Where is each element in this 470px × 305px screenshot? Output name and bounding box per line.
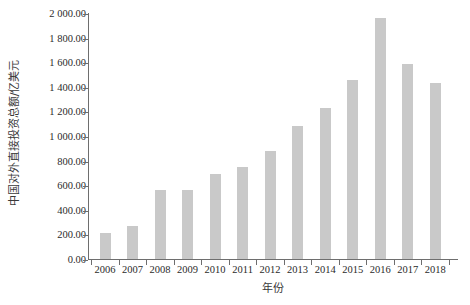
plot-area [88,13,458,260]
bar [402,64,413,259]
y-axis-tick-label: 0.00 [18,255,86,265]
bar [265,151,276,259]
y-axis-tick-label: 1 600.00 [18,58,86,68]
y-axis-tick-label: 600.00 [18,181,86,191]
bar [292,126,303,259]
y-axis-tick-label: 1 200.00 [18,107,86,117]
bar [237,167,248,259]
bar [320,108,331,259]
bar-chart-figure: 中国对外直接投资总额/亿美元 0.00200.00400.00600.00800… [0,0,470,305]
bar [182,190,193,259]
x-axis-title: 年份 [88,282,458,296]
y-axis-tick-label: 2 000.00 [18,9,86,19]
y-axis-tick-labels: 0.00200.00400.00600.00800.001 000.001 20… [18,0,86,305]
y-axis-tick-label: 1 400.00 [18,83,86,93]
y-axis-tick-mark [83,39,88,40]
y-axis-tick-mark [83,137,88,138]
bar [375,18,386,259]
bar [430,83,441,259]
y-axis-tick-label: 200.00 [18,230,86,240]
y-axis-tick-label: 400.00 [18,206,86,216]
y-axis-tick-mark [83,63,88,64]
y-axis-tick-mark [83,88,88,89]
y-axis-tick-label: 1 000.00 [18,132,86,142]
y-axis-tick-label: 800.00 [18,157,86,167]
bar [347,80,358,259]
x-axis-tick-labels: 2006200720082009201020112012201320142015… [88,263,458,279]
y-axis-tick-mark [83,260,88,261]
y-axis-tick-mark [83,211,88,212]
bar [100,233,111,259]
y-axis-tick-mark [83,235,88,236]
bar [210,174,221,259]
bar [155,190,166,259]
y-axis-tick-mark [83,162,88,163]
y-axis-tick-mark [83,186,88,187]
y-axis-tick-label: 1 800.00 [18,34,86,44]
x-axis-tick-label: 2018 [415,263,455,276]
y-axis-tick-mark [83,14,88,15]
bars-layer [88,13,458,260]
y-axis-tick-mark [83,112,88,113]
bar [127,226,138,259]
